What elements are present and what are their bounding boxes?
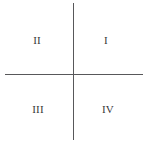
quadrant-label-ii: II: [33, 35, 41, 46]
quadrant-diagram: I II III IV: [0, 0, 146, 142]
quadrant-label-iii: III: [32, 104, 44, 115]
x-axis-line: [5, 74, 143, 75]
quadrant-label-iv: IV: [102, 104, 114, 115]
quadrant-label-i: I: [104, 35, 108, 46]
y-axis-line: [73, 3, 74, 140]
